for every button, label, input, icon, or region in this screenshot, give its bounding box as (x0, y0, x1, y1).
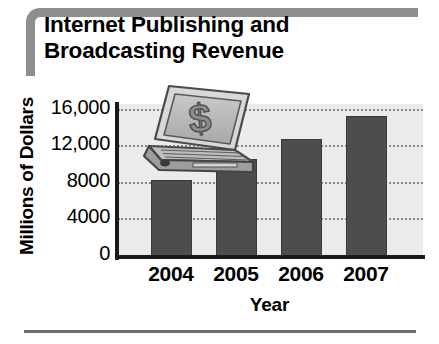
y-tick-label-8000: 8000 (26, 169, 110, 192)
y-axis-title: Millions of Dollars (16, 86, 38, 266)
y-tick-label-0: 0 (26, 242, 110, 265)
laptop-with-dollar-sign-icon: $ (131, 84, 263, 184)
y-axis-tick-labels: 16,000 12,000 8000 4000 0 (26, 0, 110, 344)
bar-2007 (346, 116, 387, 257)
chart-plot: $ 16,000 12,000 8000 4000 0 Millions of … (0, 0, 439, 344)
y-tick-label-4000: 4000 (26, 205, 110, 228)
y-tick-label-12000: 12,000 (26, 132, 110, 155)
x-tick-label-2007: 2007 (327, 262, 405, 286)
footer-divider (24, 330, 416, 333)
x-axis-title-wrap: Year (0, 294, 439, 316)
svg-text:$: $ (187, 95, 213, 141)
x-axis-line (115, 255, 425, 259)
bar-2006 (281, 139, 322, 257)
y-axis-line (115, 102, 119, 260)
bar-2004 (151, 180, 192, 257)
x-axis-title: Year (250, 294, 289, 316)
y-tick-label-16000: 16,000 (26, 96, 110, 119)
